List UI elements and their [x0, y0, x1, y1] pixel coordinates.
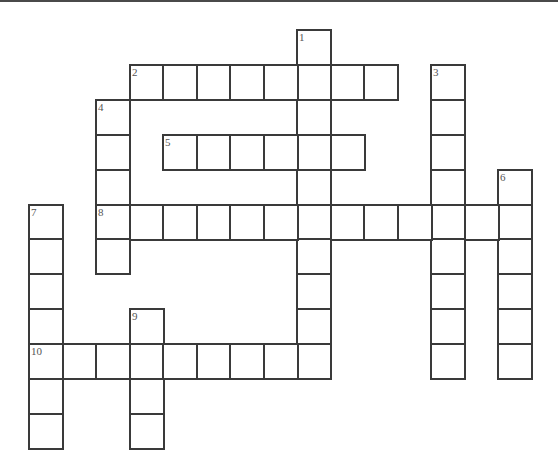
crossword-cell[interactable]: [129, 413, 165, 450]
crossword-cell[interactable]: [263, 204, 299, 241]
crossword-cell[interactable]: [430, 99, 466, 136]
crossword-cell[interactable]: 10: [28, 343, 64, 380]
crossword-grid: 12348567109: [0, 0, 558, 472]
crossword-cell[interactable]: [95, 134, 131, 171]
crossword-cell[interactable]: [28, 238, 64, 275]
crossword-cell[interactable]: [263, 64, 299, 101]
crossword-cell[interactable]: [296, 64, 332, 101]
crossword-cell[interactable]: 4: [95, 99, 131, 136]
crossword-cell[interactable]: 8: [95, 204, 131, 241]
clue-number: 7: [31, 206, 37, 218]
crossword-cell[interactable]: [296, 343, 332, 380]
crossword-cell[interactable]: [363, 64, 399, 101]
crossword-cell[interactable]: [296, 134, 332, 171]
clue-number: 4: [98, 101, 104, 113]
crossword-cell[interactable]: [229, 343, 265, 380]
crossword-cell[interactable]: 5: [162, 134, 198, 171]
crossword-cell[interactable]: [296, 204, 332, 241]
crossword-cell[interactable]: [296, 99, 332, 136]
crossword-cell[interactable]: [129, 204, 165, 241]
crossword-cell[interactable]: [430, 204, 466, 241]
crossword-cell[interactable]: [196, 343, 232, 380]
crossword-cell[interactable]: [196, 134, 232, 171]
crossword-cell[interactable]: [363, 204, 399, 241]
crossword-cell[interactable]: [296, 169, 332, 206]
crossword-cell[interactable]: [28, 308, 64, 345]
crossword-cell[interactable]: [263, 343, 299, 380]
crossword-cell[interactable]: [497, 308, 533, 345]
crossword-cell[interactable]: [330, 64, 366, 101]
crossword-cell[interactable]: [162, 343, 198, 380]
clue-number: 1: [299, 31, 305, 43]
crossword-cell[interactable]: [430, 343, 466, 380]
crossword-cell[interactable]: [129, 343, 165, 380]
clue-number: 10: [31, 345, 42, 357]
crossword-cell[interactable]: [397, 204, 433, 241]
crossword-cell[interactable]: [430, 238, 466, 275]
crossword-cell[interactable]: [430, 273, 466, 310]
crossword-cell[interactable]: [229, 134, 265, 171]
crossword-cell[interactable]: [95, 238, 131, 275]
crossword-cell[interactable]: [196, 204, 232, 241]
crossword-cell[interactable]: [296, 273, 332, 310]
crossword-cell[interactable]: [497, 343, 533, 380]
crossword-cell[interactable]: 7: [28, 204, 64, 241]
crossword-cell[interactable]: 9: [129, 308, 165, 345]
crossword-cell[interactable]: [464, 204, 500, 241]
crossword-cell[interactable]: [296, 308, 332, 345]
crossword-cell[interactable]: [263, 134, 299, 171]
crossword-cell[interactable]: [28, 378, 64, 415]
crossword-cell[interactable]: [162, 64, 198, 101]
crossword-cell[interactable]: [229, 64, 265, 101]
crossword-cell[interactable]: 1: [296, 29, 332, 66]
crossword-cell[interactable]: [129, 378, 165, 415]
crossword-cell[interactable]: [95, 169, 131, 206]
crossword-cell[interactable]: [430, 169, 466, 206]
crossword-cell[interactable]: [430, 134, 466, 171]
crossword-cell[interactable]: [330, 204, 366, 241]
crossword-cell[interactable]: 6: [497, 169, 533, 206]
crossword-cell[interactable]: [497, 204, 533, 241]
crossword-cell[interactable]: 3: [430, 64, 466, 101]
crossword-cell[interactable]: [95, 343, 131, 380]
crossword-cell[interactable]: [296, 238, 332, 275]
clue-number: 3: [433, 66, 439, 78]
crossword-cell[interactable]: [162, 204, 198, 241]
crossword-cell[interactable]: 2: [129, 64, 165, 101]
crossword-cell[interactable]: [62, 343, 98, 380]
crossword-cell[interactable]: [497, 273, 533, 310]
crossword-cell[interactable]: [28, 413, 64, 450]
crossword-cell[interactable]: [330, 134, 366, 171]
crossword-cell[interactable]: [430, 308, 466, 345]
clue-number: 2: [132, 66, 138, 78]
crossword-cell[interactable]: [497, 238, 533, 275]
crossword-cell[interactable]: [28, 273, 64, 310]
clue-number: 8: [98, 206, 104, 218]
crossword-cell[interactable]: [229, 204, 265, 241]
clue-number: 6: [500, 171, 506, 183]
clue-number: 9: [132, 310, 138, 322]
crossword-cell[interactable]: [196, 64, 232, 101]
clue-number: 5: [165, 136, 171, 148]
